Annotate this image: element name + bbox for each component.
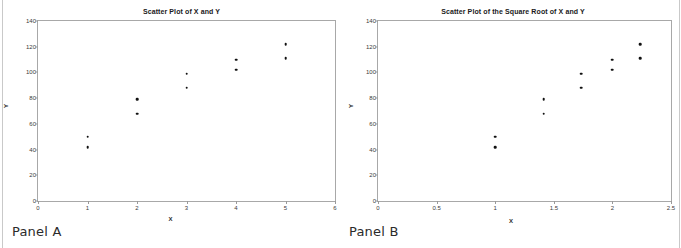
scatter-point bbox=[86, 146, 89, 149]
x-tick-label: 4 bbox=[234, 205, 237, 211]
x-tick-mark bbox=[88, 201, 89, 204]
x-tick-label: 2.5 bbox=[667, 205, 675, 211]
x-tick-label: 2 bbox=[611, 205, 614, 211]
plot-area-panel-a: 0204060801001201400123456 bbox=[37, 20, 336, 202]
chart-title-panel-b: Scatter Plot of the Square Root of X and… bbox=[341, 8, 681, 15]
scatter-point bbox=[284, 43, 287, 46]
plot-area-panel-b: 02040608010012014000.511.522.5 bbox=[377, 20, 672, 202]
scatter-point bbox=[86, 135, 89, 138]
y-tick-mark bbox=[375, 72, 378, 73]
x-tick-mark bbox=[236, 201, 237, 204]
x-tick-mark bbox=[187, 201, 188, 204]
y-tick-mark bbox=[375, 98, 378, 99]
y-axis-label-panel-b: Y bbox=[348, 104, 354, 108]
scatter-point bbox=[185, 72, 188, 75]
scatter-point bbox=[639, 43, 642, 46]
x-tick-label: 6 bbox=[333, 205, 336, 211]
scatter-point bbox=[542, 98, 545, 101]
y-tick-mark bbox=[375, 21, 378, 22]
y-axis-label-panel-a: Y bbox=[3, 104, 9, 108]
figure-root: Scatter Plot of X and Y 0204060801001201… bbox=[0, 0, 681, 248]
y-tick-mark bbox=[375, 46, 378, 47]
y-tick-mark bbox=[35, 149, 38, 150]
x-tick-mark bbox=[137, 201, 138, 204]
scatter-point bbox=[611, 58, 614, 61]
panel-a: Scatter Plot of X and Y 0204060801001201… bbox=[0, 0, 341, 248]
chart-title-panel-a: Scatter Plot of X and Y bbox=[0, 8, 341, 15]
x-tick-label: 5 bbox=[284, 205, 287, 211]
scatter-point bbox=[235, 58, 238, 61]
scatter-point bbox=[136, 98, 139, 101]
x-tick-label: 0 bbox=[36, 205, 39, 211]
scatter-point bbox=[542, 112, 545, 115]
x-tick-mark bbox=[612, 201, 613, 204]
x-tick-label: 0 bbox=[376, 205, 379, 211]
scatter-point bbox=[494, 146, 497, 149]
y-tick-mark bbox=[35, 175, 38, 176]
y-tick-mark bbox=[375, 149, 378, 150]
x-tick-mark bbox=[495, 201, 496, 204]
y-tick-mark bbox=[35, 123, 38, 124]
x-tick-label: 3 bbox=[185, 205, 188, 211]
scatter-point bbox=[284, 57, 287, 60]
panel-caption-a: Panel A bbox=[12, 224, 62, 239]
x-tick-mark bbox=[437, 201, 438, 204]
x-tick-label: 1 bbox=[86, 205, 89, 211]
scatter-point bbox=[639, 57, 642, 60]
y-tick-mark bbox=[35, 21, 38, 22]
x-tick-mark bbox=[335, 201, 336, 204]
scatter-point bbox=[494, 135, 497, 138]
scatter-point bbox=[185, 87, 188, 90]
y-tick-mark bbox=[375, 175, 378, 176]
y-tick-mark bbox=[35, 98, 38, 99]
x-axis-label-panel-a: X bbox=[0, 216, 341, 222]
x-tick-label: 0.5 bbox=[432, 205, 440, 211]
x-tick-mark bbox=[286, 201, 287, 204]
x-tick-mark bbox=[38, 201, 39, 204]
y-tick-mark bbox=[35, 46, 38, 47]
x-tick-mark bbox=[378, 201, 379, 204]
scatter-point bbox=[235, 69, 238, 72]
scatter-point bbox=[611, 69, 614, 72]
y-tick-mark bbox=[35, 72, 38, 73]
panel-b: Scatter Plot of the Square Root of X and… bbox=[341, 0, 681, 248]
x-tick-label: 1.5 bbox=[550, 205, 558, 211]
panel-caption-b: Panel B bbox=[349, 224, 399, 239]
x-tick-label: 1 bbox=[494, 205, 497, 211]
scatter-point bbox=[136, 112, 139, 115]
x-tick-mark bbox=[554, 201, 555, 204]
y-tick-mark bbox=[375, 123, 378, 124]
x-tick-mark bbox=[671, 201, 672, 204]
x-tick-label: 2 bbox=[135, 205, 138, 211]
scatter-point bbox=[580, 87, 583, 90]
scatter-point bbox=[580, 72, 583, 75]
